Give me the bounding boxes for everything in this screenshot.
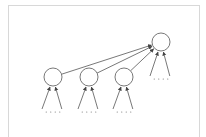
input-group [150,52,170,80]
input-group [113,87,133,113]
input-group [78,87,98,113]
ellipsis-dot [163,78,164,79]
parent-node [152,33,170,51]
tree-diagram [0,0,206,137]
child-3-node [115,68,133,86]
input-arrow [150,52,158,76]
ellipsis-dot [50,111,51,112]
input-arrow [55,87,61,109]
ellipsis-dot [158,78,159,79]
child-2-node [80,68,98,86]
input-arrow [78,87,86,109]
ellipsis-dot [167,78,168,79]
child-1-node [44,68,62,86]
ellipsis-dot [59,111,60,112]
edges [62,45,154,74]
ellipsis-dot [117,111,118,112]
ellipsis-dot [121,111,122,112]
ellipsis-dot [154,78,155,79]
input-arrow [126,87,132,109]
input-arrow [42,87,50,109]
ellipsis-dot [46,111,47,112]
ellipsis-dot [130,111,131,112]
ellipsis-dot [95,111,96,112]
edge-arrow [131,49,154,71]
input-arrows [42,52,170,113]
input-arrow [113,87,121,109]
input-arrow [163,52,169,76]
ellipsis-dot [86,111,87,112]
input-arrow [91,87,97,109]
ellipsis-dot [126,111,127,112]
input-group [42,87,62,113]
edge-arrow [62,45,152,74]
ellipsis-dot [82,111,83,112]
ellipsis-dot [55,111,56,112]
ellipsis-dot [91,111,92,112]
